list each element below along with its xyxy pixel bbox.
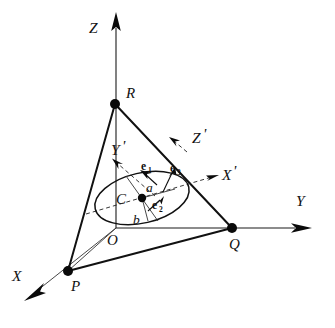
- axis-z-prime-tick: ': [203, 125, 207, 142]
- axis-x-label: X: [11, 267, 22, 284]
- point-r-label: R: [125, 85, 135, 101]
- axis-y-prime-arrowhead: [112, 159, 123, 170]
- axis-x-arrowhead: [24, 283, 46, 301]
- point-p-dot: [63, 266, 73, 276]
- axis-y-label: Y: [296, 192, 306, 209]
- basis-vector-e2-symbol: e: [152, 199, 157, 211]
- semi-axis-a-label: a: [146, 180, 153, 195]
- point-r-dot: [110, 99, 120, 109]
- basis-vector-e2-arrowhead: [157, 196, 165, 205]
- basis-vector-e1-subscript: 1: [148, 166, 152, 175]
- point-q-label: Q: [229, 236, 240, 252]
- point-c-label: C: [116, 191, 127, 207]
- axis-y-prime-tick: ': [122, 137, 126, 154]
- point-p-label: P: [70, 278, 80, 294]
- axis-y-prime-label-group: Y ': [111, 137, 126, 158]
- basis-vector-e3-subscript: 3: [177, 168, 181, 177]
- point-q-dot: [227, 223, 237, 233]
- basis-vector-e2-subscript: 2: [159, 205, 163, 214]
- axis-y: [116, 223, 312, 233]
- axis-y-prime-label: Y: [111, 141, 121, 158]
- semi-axis-b-label: b: [133, 212, 140, 227]
- axis-z-prime-label-group: Z ': [192, 125, 207, 146]
- axis-x-prime-tick: ': [233, 162, 237, 179]
- axis-x-prime-label-group: X ': [221, 162, 237, 183]
- axis-x-prime-label: X: [221, 166, 232, 183]
- basis-vector-e3-line: [163, 173, 172, 192]
- coordinate-frame-diagram: Z Y X X ' Y ' Z ' R Q P O C a b e 1 e: [0, 0, 335, 328]
- point-o-label: O: [107, 232, 118, 248]
- axis-z-prime: [169, 137, 187, 152]
- axis-z-prime-line: [174, 141, 187, 152]
- axis-z-prime-arrowhead: [169, 137, 180, 147]
- ellipse-center-dot: [138, 194, 146, 202]
- diagram-canvas: Z Y X X ' Y ' Z ' R Q P O C a b e 1 e: [0, 0, 335, 328]
- basis-vector-e3-symbol: e: [170, 162, 175, 174]
- basis-vector-e1-symbol: e: [141, 160, 146, 172]
- axis-z-prime-label: Z: [192, 129, 201, 146]
- axis-z-label: Z: [89, 19, 98, 36]
